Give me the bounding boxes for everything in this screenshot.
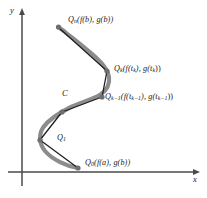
node-qmid-marker	[59, 109, 64, 114]
point-label-qk: Qk(f(tk), g(tk))	[114, 65, 161, 74]
y-axis-arrowhead	[19, 8, 25, 15]
point-label-qk-minus-1: Qk−1(f(tk−1), g(tk−1))	[105, 93, 173, 102]
point-label-qn: Qn(f(b), g(b))	[68, 16, 113, 25]
node-qk-marker	[104, 68, 109, 73]
node-q0-marker	[75, 165, 80, 170]
point-label-qk-minus-1-args-open: (f(t	[121, 92, 131, 101]
point-label-qk-minus-1-args-sub2: k−1	[158, 95, 168, 101]
point-label-q1-subscript: 1	[63, 136, 66, 142]
point-label-qk-minus-1-args-close: ))	[167, 92, 173, 101]
curve-arc-length-figure: y x C Qn(f(b), g(b)) Qk(f(tk), g(tk)) Qk…	[0, 0, 207, 198]
point-label-qk-args-close: ))	[155, 64, 161, 73]
point-label-qk-minus-1-args-mid: ), g(t	[141, 92, 158, 101]
point-label-qk-args-mid: ), g(t	[136, 64, 153, 73]
curve-label-c: C	[62, 89, 68, 98]
point-label-qk-args-open: (f(t	[123, 64, 133, 73]
y-axis-label: y	[10, 6, 14, 15]
point-label-q1: Q1	[57, 134, 66, 143]
point-label-qk-minus-1-args-sub1: k−1	[131, 95, 141, 101]
figure-canvas	[0, 0, 207, 198]
node-qk-minus-1-marker	[99, 94, 104, 99]
point-label-qk-minus-1-subscript: k−1	[111, 95, 121, 101]
node-qn-marker	[56, 24, 61, 29]
point-label-q0: Q0(f(a), g(b))	[85, 159, 130, 168]
point-label-q0-args: (f(a), g(b))	[94, 158, 130, 167]
x-axis-label: x	[193, 175, 197, 184]
point-label-qn-args: (f(b), g(b))	[77, 15, 113, 24]
node-q1-marker	[37, 137, 42, 142]
